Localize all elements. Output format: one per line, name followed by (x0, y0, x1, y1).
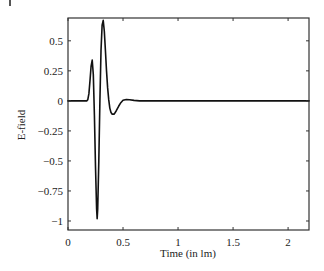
line-chart: 00.511.52 0.50.250−0.25−0.5−0.75−1 Time … (0, 0, 324, 271)
plot-area (68, 18, 309, 230)
plot-frame (68, 18, 309, 230)
y-axis-label: E-field (15, 109, 27, 140)
x-tick-label: 0.5 (116, 236, 130, 248)
y-tick-label: −0.5 (43, 155, 63, 167)
series-line (68, 20, 309, 218)
y-tick-label: −1 (51, 215, 63, 227)
x-tick-label: 2 (285, 236, 291, 248)
y-axis: 0.50.250−0.25−0.5−0.75−1 (38, 35, 309, 227)
y-tick-label: −0.75 (38, 185, 64, 197)
x-tick-label: 0 (65, 236, 71, 248)
y-tick-label: 0.5 (49, 35, 63, 47)
y-tick-label: 0.25 (44, 65, 64, 77)
x-tick-label: 1.5 (226, 236, 240, 248)
y-tick-label: 0 (58, 95, 64, 107)
y-tick-label: −0.25 (38, 125, 64, 137)
x-axis-label: Time (in lm) (160, 247, 216, 260)
